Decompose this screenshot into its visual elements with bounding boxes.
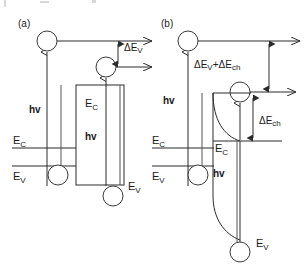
- panel-b-well-ev-label: EV: [256, 237, 269, 252]
- band-diagram-canvas: (a) (b) ΔEV hv hv EC EC EV EV ΔEV+ΔEch: [0, 0, 308, 279]
- panel-b-barrier-ec-label: EC: [152, 134, 165, 149]
- panel-a-well-ec-label: EC: [85, 97, 98, 112]
- panel-a-well-ev-label: EV: [128, 180, 141, 195]
- panel-a-photon-label-well: hv: [85, 131, 97, 142]
- panel-a-barrier-ec-label: EC: [13, 134, 26, 149]
- panel-b-hole-state-barrier: [188, 165, 208, 185]
- panel-b-hole-state-well: [230, 242, 250, 262]
- panel-b-electron-state-upper: [178, 31, 198, 51]
- panel-b-electron-state-lower: [230, 82, 250, 102]
- panel-a-hole-state-barrier: [48, 165, 68, 185]
- panel-a-hole-state-well: [103, 186, 123, 206]
- panel-b-well-ec-label: EC: [215, 142, 228, 157]
- band-diagram-figure: (a) (b) ΔEV hv hv EC EC EV EV ΔEV+ΔEch: [0, 0, 308, 279]
- panel-b-label: (b): [161, 18, 173, 29]
- panel-a-electron-state-upper: [37, 31, 57, 51]
- panel-b-graded-valence-band: [213, 196, 240, 240]
- panel-b-photon-label-well: hv: [213, 168, 225, 179]
- panel-a-electron-state-lower: [96, 57, 116, 77]
- panel-a-well-rect: [76, 85, 124, 185]
- panel-b-barrier-ev-label: EV: [152, 170, 165, 185]
- panel-b-charge-offset-label: ΔEch: [259, 115, 281, 128]
- panel-a-photon-label-left: hv: [29, 104, 41, 115]
- panel-b-total-offset-label: ΔEV+ΔEch: [194, 59, 240, 72]
- panel-a-label: (a): [18, 18, 30, 29]
- panel-a-barrier-ev-label: EV: [13, 170, 26, 185]
- panel-a-offset-label: ΔEV: [124, 42, 143, 55]
- panel-b-photon-label-left: hv: [163, 95, 175, 106]
